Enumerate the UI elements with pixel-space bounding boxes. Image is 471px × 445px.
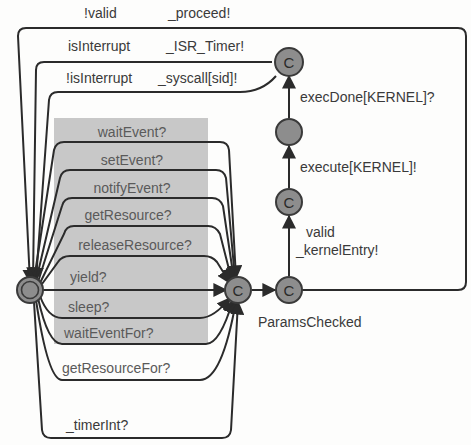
automaton-diagram: C C C C !valid _proceed! isInterrupt _IS…	[0, 0, 471, 445]
label-setEvent: setEvent?	[101, 152, 163, 168]
guard-not-valid: !valid	[84, 5, 117, 21]
label-getResourceFor: getResourceFor?	[62, 360, 170, 376]
label-notifyEvent: notifyEvent?	[93, 180, 170, 196]
state-executing[interactable]	[276, 119, 302, 145]
state-params-checked[interactable]: C	[276, 277, 302, 303]
state-done[interactable]: C	[275, 48, 303, 76]
state-name-params-checked: ParamsChecked	[258, 314, 362, 330]
label-exec-done: execDone[KERNEL]?	[300, 89, 435, 105]
sync-proceed: _proceed!	[167, 5, 230, 21]
label-waitEvent: waitEvent?	[97, 124, 167, 140]
label-timerInt: _timerInt?	[65, 417, 128, 433]
committed-marker: C	[284, 54, 295, 71]
committed-marker: C	[284, 194, 295, 211]
guard-is-interrupt: isInterrupt	[68, 38, 130, 54]
state-initial[interactable]	[17, 277, 43, 303]
label-releaseResource: releaseResource?	[78, 237, 192, 253]
sync-kernel-entry: _kernelEntry!	[295, 242, 378, 258]
committed-marker: C	[233, 282, 244, 299]
committed-marker: C	[284, 282, 295, 299]
label-yield: yield?	[70, 269, 107, 285]
label-execute: execute[KERNEL]!	[300, 159, 417, 175]
guard-valid: valid	[306, 224, 335, 240]
state-hub[interactable]: C	[225, 277, 251, 303]
sync-isr-timer: _ISR_Timer!	[165, 38, 244, 54]
label-sleep: sleep?	[68, 299, 109, 315]
label-getResource: getResource?	[84, 207, 171, 223]
label-waitEventFor: waitEventFor?	[63, 325, 154, 341]
guard-not-is-interrupt: !isInterrupt	[66, 70, 132, 86]
sync-syscall: _syscall[sid]!	[157, 70, 237, 86]
state-kernel-entered[interactable]: C	[276, 189, 302, 215]
